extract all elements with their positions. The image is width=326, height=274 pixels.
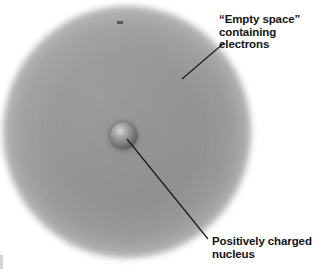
nucleus-sphere <box>110 122 137 149</box>
label-nucleus-line2: nucleus <box>212 248 312 261</box>
label-nucleus: Positively charged nucleus <box>212 235 312 260</box>
scan-edge-artifact <box>0 255 3 269</box>
label-empty-space: “Empty space” containing electrons <box>219 13 300 51</box>
label-empty-space-line3: electrons <box>219 38 300 51</box>
label-empty-space-line1: “Empty space” <box>219 13 300 26</box>
label-nucleus-line1: Positively charged <box>212 235 312 248</box>
atom-diagram-figure: “Empty space” containing electrons Posit… <box>0 0 326 274</box>
label-empty-space-line2: containing <box>219 26 300 39</box>
scan-speck-artifact <box>117 21 123 24</box>
